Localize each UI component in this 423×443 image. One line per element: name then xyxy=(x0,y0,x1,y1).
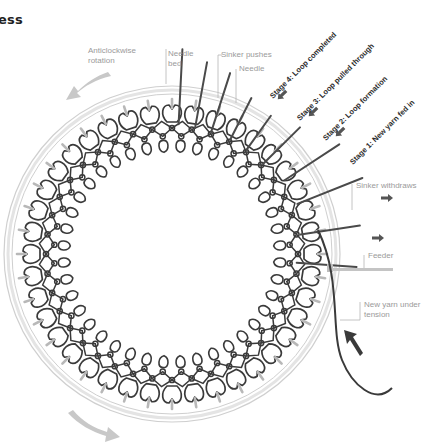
loop-head xyxy=(117,109,140,131)
needle-stub xyxy=(316,277,325,278)
label-new-yarn-line2: tension xyxy=(364,310,420,320)
inner-loop xyxy=(58,258,71,268)
needle-stub xyxy=(275,357,281,363)
loop-unit xyxy=(25,197,80,222)
inner-loop xyxy=(273,258,286,268)
inner-loop xyxy=(124,147,137,162)
needle-stub xyxy=(148,101,149,110)
inner-loop xyxy=(60,223,74,235)
inner-loop xyxy=(207,347,220,362)
inner-loop xyxy=(270,223,284,235)
label-sinker-withdraws: Sinker withdraws xyxy=(356,181,416,191)
label-needle-bed-line2: bed xyxy=(168,59,193,69)
inner-loop xyxy=(141,142,153,156)
loop-head xyxy=(27,199,49,222)
inner-loop xyxy=(265,289,280,302)
label-new-yarn: New yarn under tension xyxy=(364,300,420,320)
inner-loop xyxy=(207,147,220,162)
inner-loop xyxy=(159,355,169,368)
feeder-arrow-icon xyxy=(372,234,384,242)
label-new-yarn-line1: New yarn under xyxy=(364,300,420,310)
circular-knitting-illustration xyxy=(0,0,423,443)
label-needle-bed: Needle bed xyxy=(168,49,193,69)
needle-stub xyxy=(195,101,196,110)
needle-stub xyxy=(19,230,28,231)
label-feeder: Feeder xyxy=(368,251,393,261)
rotation-arrow-bottom-icon xyxy=(68,410,120,442)
loop-head xyxy=(295,286,317,309)
loop-head xyxy=(117,377,140,399)
stage-needle xyxy=(246,116,270,150)
inner-loop xyxy=(176,140,186,153)
loop-head xyxy=(295,199,317,222)
loop-unit xyxy=(265,286,320,311)
label-rotation: Anticlockwise rotation xyxy=(88,46,136,66)
inner-loop xyxy=(265,206,280,219)
sinker-withdraws-arrow-icon xyxy=(381,194,393,202)
label-needle-bed-line1: Needle xyxy=(168,49,193,59)
inner-loop xyxy=(270,273,284,285)
inner-loop xyxy=(65,206,80,219)
inner-loop xyxy=(60,273,74,285)
inner-loop xyxy=(141,352,153,366)
label-sinker-pushes: Sinker pushes xyxy=(221,50,272,60)
loop-unit xyxy=(270,265,325,293)
loop-head xyxy=(204,377,227,399)
needle-stub xyxy=(62,144,68,150)
label-rotation-line1: Anticlockwise xyxy=(88,46,136,56)
inner-loop xyxy=(176,355,186,368)
loop-unit xyxy=(183,101,211,156)
inner-loop xyxy=(58,241,71,251)
loop-head xyxy=(27,286,49,309)
needle-stub xyxy=(195,398,196,407)
yarn-tension-arrow-icon xyxy=(344,330,363,356)
stage-needle xyxy=(297,263,357,267)
needle-stub xyxy=(62,357,68,363)
inner-loop xyxy=(191,142,203,156)
rotation-arrow-top-icon xyxy=(66,72,111,100)
loop-unit xyxy=(96,116,137,162)
loop-unit xyxy=(207,347,248,393)
stage-needle xyxy=(195,62,207,128)
inner-loop xyxy=(124,347,137,362)
inner-loop xyxy=(191,352,203,366)
page-title: ess xyxy=(0,12,23,27)
needle-stub xyxy=(148,398,149,407)
feeder-bar xyxy=(330,268,393,271)
loop-unit xyxy=(34,289,80,330)
loop-unit xyxy=(19,215,74,243)
knitting-diagram: ess Anticlockwise rotation Needle bed Si… xyxy=(0,0,423,443)
inner-loop xyxy=(65,289,80,302)
needle-stub xyxy=(19,277,28,278)
inner-loop xyxy=(273,241,286,251)
label-rotation-line2: rotation xyxy=(88,56,136,66)
inner-loop xyxy=(159,140,169,153)
loop-unit xyxy=(115,347,140,402)
loop-unit xyxy=(133,352,161,407)
label-needle: Needle xyxy=(239,64,264,74)
loop-unit xyxy=(265,178,311,219)
